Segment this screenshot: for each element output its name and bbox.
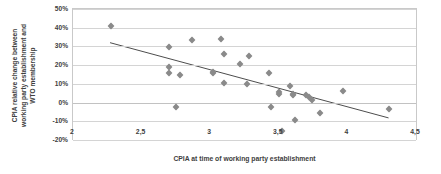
y-axis-title-line-1: CPIA relative change between (10, 24, 19, 127)
x-tick-label: 3,5 (273, 128, 282, 135)
x-axis-title: CPIA at time of working party establishm… (72, 155, 417, 162)
x-tick-label: 4 (345, 128, 349, 135)
y-tick-label: 40% (55, 23, 68, 30)
y-tick-label: 20% (55, 61, 68, 68)
y-axis-title-line-3: WTO membership (28, 24, 37, 127)
y-tick-label: -20% (53, 136, 68, 143)
scatter-chart-figure: CPIA relative change between working par… (0, 0, 441, 174)
y-tick-label: 50% (55, 5, 68, 12)
y-tick-label: 30% (55, 42, 68, 49)
y-tick-label: 0% (58, 98, 68, 105)
gridline (73, 46, 416, 47)
gridline (73, 103, 416, 104)
gridline (73, 28, 416, 29)
y-axis-title: CPIA relative change between working par… (0, 0, 46, 150)
y-tick-label: -10% (53, 117, 68, 124)
plot-area (72, 8, 417, 140)
x-tick-label: 3 (207, 128, 211, 135)
gridline (73, 65, 416, 66)
gridline (73, 9, 416, 10)
x-tick-label: 2 (70, 128, 74, 135)
gridline (73, 121, 416, 122)
x-tick-label: 4,5 (410, 128, 419, 135)
x-tick-label: 2,5 (136, 128, 145, 135)
y-axis-tick-labels: -20%-10%0%10%20%30%40%50% (42, 8, 70, 140)
y-axis-title-line-2: working party establishment and (19, 24, 28, 127)
x-axis-tick-labels: 22,533,544,5 (72, 128, 417, 142)
y-tick-label: 10% (55, 79, 68, 86)
